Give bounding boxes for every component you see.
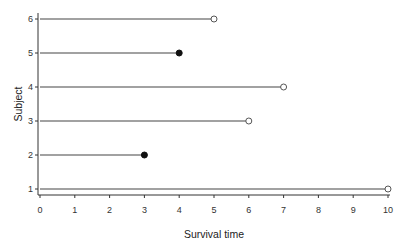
subject-5-row	[40, 50, 182, 56]
y-tick-label: 1	[28, 184, 33, 194]
censored-marker-icon	[246, 118, 252, 124]
x-tick-label: 7	[281, 205, 286, 215]
y-tick-label: 6	[28, 14, 33, 24]
subject-4-row	[40, 84, 287, 90]
subject-3-row	[40, 118, 252, 124]
y-axis-title: Subject	[12, 86, 24, 121]
x-tick-label: 0	[37, 205, 42, 215]
y-axis: 123456	[28, 13, 38, 195]
subject-1-row	[40, 186, 391, 192]
survival-chart: 123456 012345678910 Survival time Subjec…	[0, 0, 406, 247]
y-tick-label: 2	[28, 150, 33, 160]
censored-marker-icon	[385, 186, 391, 192]
subject-2-row	[40, 152, 147, 158]
x-axis-title: Survival time	[184, 228, 244, 240]
x-tick-label: 10	[383, 205, 393, 215]
y-tick-label: 4	[28, 82, 33, 92]
x-tick-label: 6	[246, 205, 251, 215]
y-tick-label: 5	[28, 48, 33, 58]
x-tick-label: 1	[72, 205, 77, 215]
y-tick-label: 3	[28, 116, 33, 126]
x-tick-label: 9	[351, 205, 356, 215]
x-tick-label: 8	[316, 205, 321, 215]
censored-marker-icon	[281, 84, 287, 90]
event-marker-icon	[176, 50, 182, 56]
x-axis: 012345678910	[37, 195, 393, 215]
x-tick-label: 3	[142, 205, 147, 215]
plot-area	[40, 16, 391, 192]
event-marker-icon	[141, 152, 147, 158]
subject-6-row	[40, 16, 217, 22]
censored-marker-icon	[211, 16, 217, 22]
x-tick-label: 4	[177, 205, 182, 215]
x-tick-label: 5	[211, 205, 216, 215]
x-tick-label: 2	[107, 205, 112, 215]
